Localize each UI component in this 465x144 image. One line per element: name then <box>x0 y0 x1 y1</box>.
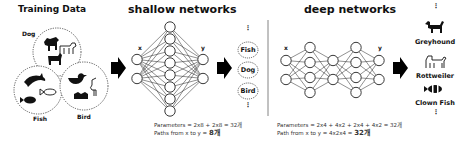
deep-paths-prefix: Path from x to y = 4x2x4 = <box>277 130 354 136</box>
neuron-node <box>351 87 361 97</box>
neuron-node <box>305 57 315 67</box>
output-ellipsis-top: ⋮ <box>424 2 448 10</box>
output-ellipsis-bottom: ⋮ <box>424 108 448 116</box>
ellipsis-top: ⋮ <box>236 24 260 32</box>
neuron-node <box>305 72 315 82</box>
neuron-node <box>132 54 142 64</box>
neuron-node <box>165 22 175 32</box>
neuron-node <box>351 57 361 67</box>
shallow-params-formula: Parameters = 2x8 + 2x8 = 32개 <box>154 121 242 129</box>
shallow-paths-value: 8개 <box>209 129 220 137</box>
neuron-node <box>281 55 291 65</box>
output-label-greyhound: Greyhound <box>405 38 465 46</box>
deep-paths-value: 32개 <box>354 129 370 137</box>
neuron-node <box>165 106 175 116</box>
arrow-icon <box>217 57 232 79</box>
shallow-input-label: x <box>138 44 142 51</box>
shallow-network <box>132 22 208 116</box>
neuron-node <box>198 54 208 64</box>
bubble-label-dog: Dog <box>236 66 260 74</box>
rottweiler-icon <box>426 56 446 68</box>
neuron-node <box>328 74 338 84</box>
output-label-clownfish: Clown Fish <box>405 99 465 107</box>
neuron-node <box>305 87 315 97</box>
neuron-node <box>351 72 361 82</box>
neuron-node <box>165 70 175 80</box>
neuron-node <box>165 82 175 92</box>
class-label-dog: Dog <box>22 30 35 37</box>
class-label-bird: Bird <box>77 113 91 120</box>
greyhound-icon <box>425 21 444 33</box>
clownfish-icon <box>424 85 442 93</box>
neuron-node <box>165 94 175 104</box>
ellipsis-bottom: ⋮ <box>236 101 260 109</box>
neuron-node <box>374 55 384 65</box>
class-label-fish: Fish <box>33 115 47 122</box>
shallow-output-label: y <box>201 44 205 51</box>
arrow-icon <box>111 57 126 79</box>
deep-network <box>281 42 384 97</box>
neuron-node <box>281 74 291 84</box>
neuron-node <box>374 74 384 84</box>
deep-paths-formula: Path from x to y = 4x2x4 = 32개 <box>277 129 370 137</box>
neuron-node <box>198 73 208 83</box>
neuron-node <box>328 55 338 65</box>
neuron-node <box>351 42 361 52</box>
output-label-rottweiler: Rottweiler <box>405 72 465 80</box>
neuron-node <box>165 34 175 44</box>
neuron-node <box>165 58 175 68</box>
neuron-node <box>305 42 315 52</box>
bubble-label-fish: Fish <box>236 46 260 54</box>
neuron-node <box>132 73 142 83</box>
shallow-paths-prefix: Paths from x to y = <box>154 130 209 136</box>
neuron-node <box>165 46 175 56</box>
deep-output-label: y <box>378 44 382 51</box>
deep-input-label: x <box>284 44 288 51</box>
deep-params-formula: Parameters = 2x4 + 4x2 + 2x4 + 4x2 = 32개 <box>277 121 402 129</box>
bird-circle <box>60 62 108 110</box>
shallow-paths-formula: Paths from x to y = 8개 <box>154 129 220 137</box>
bubble-label-bird: Bird <box>236 87 260 95</box>
